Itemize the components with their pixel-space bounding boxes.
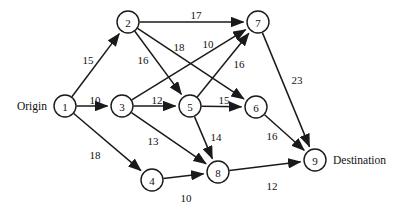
edge-weight-5-8: 14 [211, 131, 223, 143]
node-8[interactable]: 8 [207, 161, 229, 183]
edge-weight-2-6: 18 [174, 41, 186, 53]
origin-label: Origin [17, 100, 47, 113]
edge-weight-5-6: 15 [219, 94, 231, 106]
edge-5-to-6 [201, 106, 241, 107]
network-graph-canvas: 123456789 151018171618121013101516141623… [0, 0, 400, 217]
edge-1-to-2 [72, 34, 119, 97]
node-label-6: 6 [253, 102, 259, 114]
edge-weight-5-7: 16 [234, 58, 246, 70]
node-label-3: 3 [119, 101, 125, 113]
node-1[interactable]: 1 [54, 95, 76, 117]
node-9[interactable]: 9 [304, 149, 326, 171]
edge-weight-3-8: 13 [148, 135, 160, 147]
edge-weight-6-9: 16 [267, 130, 279, 142]
edge-weight-3-5: 12 [152, 94, 163, 106]
edge-weight-4-8: 10 [181, 192, 193, 204]
edge-weight-1-3: 10 [90, 94, 102, 106]
edge-1-to-4 [74, 113, 141, 170]
node-label-7: 7 [255, 17, 261, 29]
node-5[interactable]: 5 [179, 95, 201, 117]
edge-weight-2-7: 17 [191, 9, 203, 21]
network-diagram: 123456789 151018171618121013101516141623… [0, 0, 400, 217]
edge-weight-1-4: 18 [90, 149, 102, 161]
edge-4-to-8 [163, 174, 203, 179]
edge-weight-3-7: 10 [203, 38, 215, 50]
node-4[interactable]: 4 [141, 169, 163, 191]
edge-weight-2-5: 16 [138, 54, 150, 66]
node-label-4: 4 [149, 175, 155, 187]
destination-label: Destination [333, 154, 386, 166]
node-label-8: 8 [215, 167, 221, 179]
edge-3-to-8 [131, 113, 206, 164]
edge-weight-1-2: 15 [83, 54, 95, 66]
edge-weight-8-9: 12 [267, 180, 278, 192]
node-label-1: 1 [62, 101, 68, 113]
node-2[interactable]: 2 [117, 11, 139, 33]
node-label-5: 5 [187, 101, 193, 113]
edge-weight-7-9: 23 [292, 74, 304, 86]
node-label-2: 2 [125, 17, 131, 29]
edge-8-to-9 [229, 162, 300, 171]
node-7[interactable]: 7 [247, 11, 269, 33]
node-3[interactable]: 3 [111, 95, 133, 117]
node-6[interactable]: 6 [245, 96, 267, 118]
node-label-9: 9 [312, 155, 318, 167]
